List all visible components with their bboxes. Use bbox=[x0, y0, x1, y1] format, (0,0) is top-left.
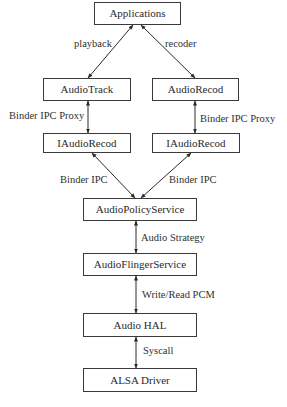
edge-label-audio-strategy: Audio Strategy bbox=[141, 233, 205, 244]
node-iaudio-record-right: IAudioRecod bbox=[152, 133, 240, 153]
edge-label-playback: playback bbox=[74, 39, 112, 50]
edge-label-binder-ipc-right: Binder IPC bbox=[169, 175, 217, 186]
arrow-applications-audiorecod bbox=[141, 25, 195, 78]
edge-label-binder-ipc-left: Binder IPC bbox=[60, 175, 108, 186]
edge-label-binder-ipc-proxy-left: Binder IPC Proxy bbox=[9, 111, 84, 122]
node-applications: Applications bbox=[94, 2, 181, 25]
node-audio-hal: Audio HAL bbox=[83, 313, 197, 337]
node-audio-track: AudioTrack bbox=[43, 78, 131, 101]
edge-label-syscall: Syscall bbox=[143, 346, 173, 357]
edge-label-write-read-pcm: Write/Read PCM bbox=[142, 290, 215, 301]
node-audio-flinger-service: AudioFlingerService bbox=[83, 253, 197, 276]
edge-label-recoder: recoder bbox=[165, 39, 196, 50]
node-audio-record: AudioRecod bbox=[152, 78, 239, 101]
edge-label-binder-ipc-proxy-right: Binder IPC Proxy bbox=[200, 114, 275, 125]
node-iaudio-record-left: IAudioRecod bbox=[43, 133, 131, 153]
node-alsa-driver: ALSA Driver bbox=[83, 368, 197, 392]
node-audio-policy-service: AudioPolicyService bbox=[83, 198, 197, 221]
audio-architecture-diagram: Applications AudioTrack AudioRecod IAudi… bbox=[0, 0, 287, 407]
arrow-applications-audiotrack bbox=[88, 25, 133, 78]
